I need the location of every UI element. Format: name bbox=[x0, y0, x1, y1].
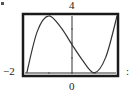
left-label: −2 bbox=[3, 66, 15, 77]
plot-frame bbox=[23, 14, 118, 76]
top-label: 4 bbox=[69, 0, 75, 11]
bottom-label: 0 bbox=[69, 81, 75, 92]
plot-area bbox=[0, 0, 131, 98]
right-label: : bbox=[126, 66, 129, 77]
